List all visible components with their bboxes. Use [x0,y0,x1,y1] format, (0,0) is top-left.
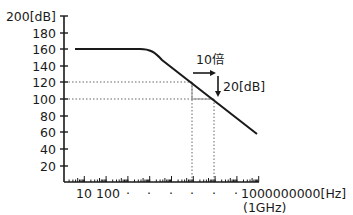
y-tick-label-200: 200[dB] [6,9,56,24]
x-tick-dot: · [212,186,216,201]
annotation-decade: 10倍 [196,52,225,67]
bode-plot: 200[dB] 180 160 140 120 100 80 60 40 20 … [0,0,353,215]
y-tick-label-180: 180 [32,26,56,41]
arrow-down-icon [215,76,221,97]
y-tick-label-60: 60 [40,125,56,140]
x-log-ticks [69,176,259,182]
x-tick-dot: · [169,186,173,201]
x-tick-dot: · [190,186,194,201]
slope-triangle [192,82,214,99]
arrow-right-icon [193,70,216,76]
x-tick-dot: · [234,186,238,201]
y-tick-label-20: 20 [40,159,56,174]
x-tick-label-100: 100 [96,186,120,201]
annotation-20db: 20[dB] [223,79,265,94]
y-tick-label-80: 80 [40,109,56,124]
y-tick-label-40: 40 [40,142,56,157]
x-tick-label-10: 10 [76,186,92,201]
y-tick-label-120: 120 [32,75,56,90]
y-tick-label-100: 100 [32,92,56,107]
y-tick-label-160: 160 [32,42,56,57]
y-tick-label-140: 140 [32,59,56,74]
x-tick-dot: · [126,186,130,201]
x-tick-label-1ghz: 1000000000[Hz] [241,186,346,201]
x-tick-sublabel-1ghz: (1GHz) [243,200,286,215]
x-tick-dot: · [147,186,151,201]
